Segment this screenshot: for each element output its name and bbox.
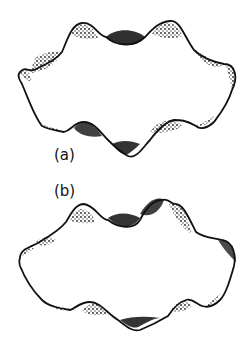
figure: (a) (b) — [0, 0, 252, 352]
panel-a-shape — [19, 21, 236, 157]
panel-b-shape — [19, 199, 236, 331]
panel-b-label: (b) — [54, 182, 75, 200]
panel-a-label: (a) — [54, 146, 75, 164]
diagram-svg — [0, 0, 252, 352]
